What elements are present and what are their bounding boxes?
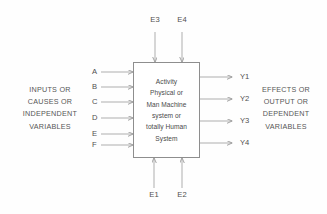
input-label-f: F — [92, 141, 97, 149]
system-block-diagram: Activity Physical or Man Machine system … — [0, 0, 327, 214]
outputs-description-line: OUTPUT OR — [246, 96, 326, 108]
environment-label-e1: E1 — [144, 191, 164, 199]
inputs-description-line: INDEPENDENT — [3, 108, 97, 120]
inputs-description-line: VARIABLES — [3, 121, 97, 133]
input-label-c: C — [92, 98, 97, 106]
process-box-line: System — [155, 133, 177, 144]
inputs-description-line: CAUSES OR — [3, 96, 97, 108]
output-label-y3: Y3 — [240, 117, 249, 125]
inputs-description-label: INPUTS OR CAUSES OR INDEPENDENT VARIABLE… — [3, 84, 97, 133]
process-box: Activity Physical or Man Machine system … — [133, 62, 200, 158]
input-label-b: B — [92, 83, 97, 91]
process-box-line: Man Machine — [146, 99, 186, 110]
outputs-description-line: EFFECTS OR — [246, 84, 326, 96]
output-label-y1: Y1 — [240, 73, 249, 81]
input-label-d: D — [92, 114, 97, 122]
output-label-y4: Y4 — [240, 139, 249, 147]
inputs-description-line: INPUTS OR — [3, 84, 97, 96]
outputs-description-line: VARIABLES — [246, 121, 326, 133]
environment-label-e3: E3 — [145, 16, 165, 24]
process-box-line: Activity — [156, 76, 177, 87]
input-label-a: A — [92, 68, 97, 76]
outputs-description-label: EFFECTS OR OUTPUT OR DEPENDENT VARIABLES — [246, 84, 326, 133]
environment-label-e2: E2 — [172, 191, 192, 199]
process-box-line: totally Human — [146, 121, 187, 132]
output-label-y2: Y2 — [240, 95, 249, 103]
process-box-line: system or — [152, 110, 181, 121]
environment-label-e4: E4 — [172, 16, 192, 24]
process-box-line: Physical or — [150, 87, 183, 98]
outputs-description-line: DEPENDENT — [246, 108, 326, 120]
input-label-e: E — [92, 130, 97, 138]
